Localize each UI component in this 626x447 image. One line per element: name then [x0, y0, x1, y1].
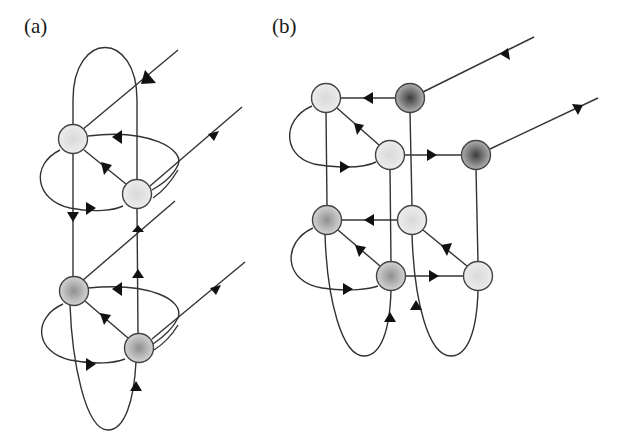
arrow-icon: [112, 130, 122, 144]
edge-b2-b6: [410, 112, 412, 206]
arrow-icon: [355, 245, 366, 257]
arrow-icon: [101, 162, 112, 175]
node-b4: [462, 141, 491, 170]
arrow-icon: [384, 312, 396, 322]
arrow-icon: [364, 214, 374, 226]
edge-in-b2: [423, 37, 534, 92]
node-b5: [313, 206, 342, 235]
edge-a-ellipse-lower-left: [42, 304, 125, 363]
edge-out-a2: [150, 107, 242, 186]
arrow-icon: [100, 313, 111, 325]
node-a1: [59, 125, 88, 154]
arrow-icon: [130, 381, 142, 391]
node-b2: [396, 84, 425, 113]
arrow-icon: [141, 70, 156, 84]
arrow-icon: [429, 270, 439, 282]
diagram-canvas: [0, 0, 626, 447]
panel-a: [40, 48, 245, 431]
edge-a4-double: [154, 325, 178, 350]
arrow-icon: [441, 243, 452, 256]
arrow-icon: [86, 202, 96, 215]
node-a3: [60, 277, 89, 306]
edge-b3-b7: [390, 169, 391, 262]
node-b1: [312, 84, 341, 113]
edge-a-ellipse-upper-left: [40, 150, 123, 211]
node-b8: [464, 262, 493, 291]
node-a4: [125, 334, 154, 363]
arrow-icon: [340, 161, 350, 173]
edge-a-bottom-loop: [70, 305, 136, 430]
edge-b1-b5: [326, 112, 327, 206]
nodes-b: [312, 84, 493, 291]
panel-b: [290, 37, 598, 356]
arrow-icon: [208, 131, 219, 141]
node-b3: [376, 141, 405, 170]
arrow-icon: [363, 92, 373, 104]
arrow-icon: [354, 123, 364, 135]
node-a2: [123, 180, 152, 209]
arrow-icon: [427, 149, 437, 161]
edge-a2-double: [153, 170, 178, 198]
edge-out-a4: [152, 262, 245, 339]
edge-a-top-loop: [73, 48, 137, 181]
arrow-icon: [132, 269, 144, 278]
edge-in-a3: [82, 201, 175, 281]
arrow-icon: [112, 282, 122, 296]
edge-in-a1: [82, 50, 178, 130]
arrow-icon: [67, 212, 79, 222]
edge-b5-loop-b7: [291, 228, 378, 290]
arrow-icon: [86, 358, 96, 371]
edge-b1-loop-b3: [290, 106, 376, 167]
arrows-b: [340, 48, 583, 322]
arrow-icon: [343, 283, 353, 295]
edge-b4-b8: [476, 169, 478, 262]
node-b6: [398, 206, 427, 235]
node-b7: [377, 262, 406, 291]
